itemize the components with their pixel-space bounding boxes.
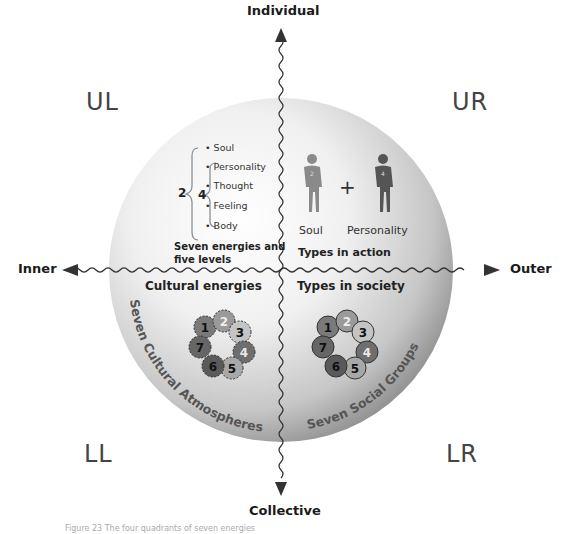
- svg-text:1: 1: [201, 321, 209, 335]
- arrow-down-icon: [275, 482, 287, 496]
- svg-text:1: 1: [324, 321, 332, 335]
- energy-circle-3: 3: [352, 321, 374, 343]
- svg-text:5: 5: [228, 362, 236, 376]
- personality-figure-label: Personality: [347, 224, 408, 237]
- svg-text:6: 6: [209, 360, 217, 374]
- level-feeling: • Feeling: [205, 200, 248, 211]
- arrow-left-icon: [62, 264, 78, 276]
- axis-label-inner: Inner: [18, 261, 57, 276]
- ul-title-line1: Seven energies and: [174, 240, 285, 253]
- figure-caption: Figure 23 The four quadrants of seven en…: [65, 524, 255, 533]
- soul-badge: 2: [310, 170, 314, 177]
- energy-circle-6: 6: [202, 355, 224, 377]
- svg-text:4: 4: [240, 346, 248, 360]
- svg-text:3: 3: [236, 326, 244, 340]
- svg-text:6: 6: [332, 360, 340, 374]
- energy-circle-6: 6: [325, 355, 347, 377]
- energy-count-2: 2: [178, 186, 186, 200]
- axis-label-collective: Collective: [249, 503, 321, 518]
- axis-label-individual: Individual: [247, 3, 320, 18]
- soul-figure-label: Soul: [299, 224, 323, 237]
- svg-text:7: 7: [196, 341, 204, 355]
- axis-label-outer: Outer: [510, 261, 552, 276]
- svg-text:5: 5: [351, 362, 359, 376]
- level-thought: • Thought: [205, 180, 253, 191]
- ul-title: Seven energies and five levels: [174, 240, 285, 266]
- quadrant-ul: UL: [86, 88, 119, 116]
- ll-title: Cultural energies: [145, 279, 262, 293]
- energy-circle-7: 7: [312, 336, 334, 358]
- energy-circle-3: 3: [229, 321, 251, 343]
- svg-text:3: 3: [359, 326, 367, 340]
- level-soul: • Soul: [205, 142, 234, 153]
- quadrant-ur: UR: [452, 88, 488, 116]
- lr-title: Types in society: [297, 279, 405, 293]
- ur-title: Types in action: [298, 246, 391, 259]
- svg-text:4: 4: [363, 346, 371, 360]
- ul-title-line2: five levels: [174, 253, 285, 266]
- level-body: • Body: [205, 220, 238, 231]
- arrow-right-icon: [484, 264, 500, 276]
- quadrant-ll: LL: [84, 440, 113, 468]
- quadrant-lr: LR: [446, 440, 478, 468]
- energy-circle-7: 7: [189, 336, 211, 358]
- level-personality: • Personality: [205, 161, 266, 172]
- arrow-up-icon: [275, 28, 287, 42]
- plus-sign: +: [339, 175, 356, 199]
- personality-badge: 4: [381, 170, 385, 177]
- svg-text:7: 7: [319, 341, 327, 355]
- svg-text:2: 2: [343, 315, 351, 329]
- svg-text:2: 2: [220, 315, 228, 329]
